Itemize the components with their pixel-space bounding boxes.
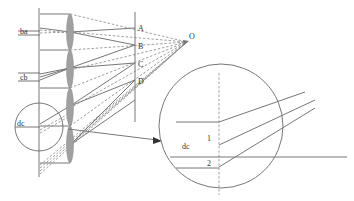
label-ba: ba [20,27,28,36]
lens-4 [67,126,74,163]
magnify-arrow [68,129,157,140]
solid-rays [40,14,135,163]
dashed-rays-to-focal-point [40,14,187,174]
lens-1 [67,14,74,50]
optics-diagram: ba cb dc A B C D O dc 1 2 [0,0,354,201]
label-C: C [138,60,143,69]
label-cb: cb [20,73,28,82]
label-A: A [138,24,144,33]
label-1: 1 [207,134,211,143]
magnified-ray-1 [219,92,305,122]
label-2: 2 [207,159,211,168]
label-B: B [138,42,143,51]
lens-3 [67,88,74,126]
label-dc-small: dc [17,119,25,128]
label-D: D [138,77,144,86]
lens-2 [67,50,74,88]
magnified-detail-circle [159,64,283,188]
label-O: O [189,32,195,41]
label-dc-large: dc [182,142,190,151]
magnified-ray-2 [219,100,315,145]
